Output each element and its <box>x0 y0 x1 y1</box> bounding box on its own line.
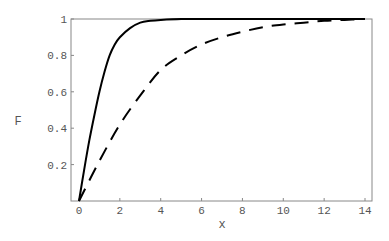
y-tick-label: 0.2 <box>47 160 67 172</box>
x-tick-label: 12 <box>318 205 331 217</box>
x-tick-label: 8 <box>239 205 246 217</box>
y-tick-label: 0.6 <box>47 87 67 99</box>
y-tick-label: 1 <box>60 14 67 26</box>
x-tick-label: 14 <box>358 205 372 217</box>
plot-border <box>71 19 372 201</box>
x-tick-label: 6 <box>198 205 205 217</box>
chart: 024681012140.20.40.60.81 x F <box>0 0 389 241</box>
solid-line <box>79 19 365 201</box>
x-tick-label: 2 <box>117 205 124 217</box>
x-tick-label: 4 <box>157 205 164 217</box>
dashed-line <box>79 19 365 201</box>
x-tick-label: 10 <box>277 205 290 217</box>
y-tick-label: 0.8 <box>47 50 67 62</box>
plot-frame <box>71 19 372 201</box>
series-group <box>79 19 365 201</box>
y-axis-label: F <box>14 115 21 129</box>
x-tick-label: 0 <box>76 205 83 217</box>
x-axis-label: x <box>218 218 225 232</box>
axis-ticks: 024681012140.20.40.60.81 <box>47 14 372 217</box>
y-tick-label: 0.4 <box>47 123 67 135</box>
